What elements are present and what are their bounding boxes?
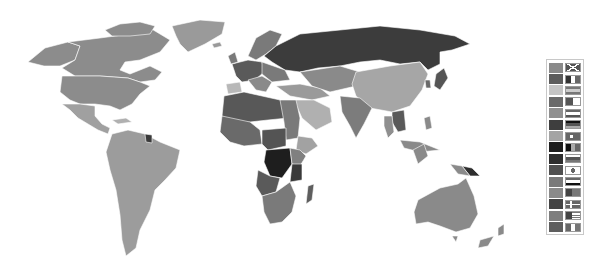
legend-entry <box>549 130 581 141</box>
region-mexico[interactable] <box>62 104 110 134</box>
denmark-flag-icon <box>565 200 581 209</box>
legend-entry <box>549 119 581 130</box>
legend-entry <box>549 62 581 73</box>
legend-swatch <box>549 199 563 209</box>
legend-entry <box>549 210 581 221</box>
region-thailand[interactable] <box>384 116 394 138</box>
portugal-flag-icon <box>565 188 581 197</box>
italy-flag-icon <box>565 223 581 232</box>
belgium-flag-icon <box>565 143 581 152</box>
region-new-zealand[interactable] <box>478 224 504 248</box>
netherlands-flag-icon <box>565 109 581 118</box>
united-states-flag-icon <box>565 211 581 220</box>
region-korea[interactable] <box>425 80 431 88</box>
region-tasmania[interactable] <box>452 236 458 242</box>
region-philippines[interactable] <box>424 116 432 130</box>
legend-swatch <box>549 85 563 95</box>
region-iberia[interactable] <box>226 82 242 94</box>
region-south-america[interactable] <box>106 130 180 256</box>
legend-entry <box>549 108 581 119</box>
region-guiana[interactable] <box>145 134 152 143</box>
legend-entry <box>549 176 581 187</box>
legend-entry <box>549 221 581 232</box>
legend-swatch <box>549 222 563 232</box>
russia-flag-icon <box>565 154 581 163</box>
legend-swatch <box>549 177 563 187</box>
united-kingdom-flag-icon <box>565 63 581 72</box>
legend-swatch <box>549 188 563 198</box>
region-arabia[interactable] <box>294 100 332 130</box>
world-map <box>0 0 540 273</box>
legend-swatch <box>549 108 563 118</box>
france-flag-icon <box>565 75 581 84</box>
region-drc[interactable] <box>264 148 292 178</box>
legend-swatch <box>549 165 563 175</box>
legend-swatch <box>549 97 563 107</box>
egypt-flag-icon <box>565 177 581 186</box>
legend-entry <box>549 96 581 107</box>
legend-swatch <box>549 120 563 130</box>
region-caribbean[interactable] <box>112 118 132 124</box>
legend-entry <box>549 187 581 198</box>
region-tanzania[interactable] <box>290 164 302 182</box>
spain-flag-icon <box>565 86 581 95</box>
region-australia[interactable] <box>414 178 478 232</box>
region-central-africa[interactable] <box>262 128 286 150</box>
region-iceland[interactable] <box>212 42 222 48</box>
legend-swatch <box>549 74 563 84</box>
japan-flag-icon <box>565 166 581 175</box>
region-russia[interactable] <box>264 26 470 72</box>
legend-swatch <box>549 131 563 141</box>
legend-swatch <box>549 63 563 73</box>
legend-entry <box>549 73 581 84</box>
legend-entry <box>549 142 581 153</box>
region-united-kingdom[interactable] <box>228 52 238 64</box>
region-madagascar[interactable] <box>306 184 314 204</box>
turkey-flag-icon <box>565 132 581 141</box>
legend-swatch <box>549 142 563 152</box>
region-indochina[interactable] <box>392 110 406 132</box>
legend-entry <box>549 199 581 210</box>
algeria-flag-icon <box>565 97 581 106</box>
germany-flag-icon <box>565 120 581 129</box>
region-arctic-islands[interactable] <box>105 22 155 36</box>
region-japan[interactable] <box>434 68 448 90</box>
legend-swatch <box>549 154 563 164</box>
legend-swatch <box>549 211 563 221</box>
legend-entry <box>549 153 581 164</box>
map-legend <box>546 59 584 235</box>
legend-entry <box>549 165 581 176</box>
legend-entry <box>549 85 581 96</box>
